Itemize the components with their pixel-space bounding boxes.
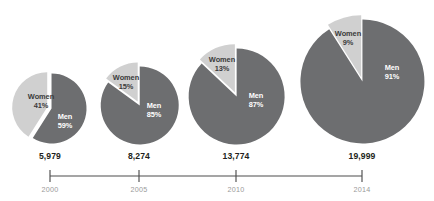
pie-value-men-2000: 59% (58, 121, 73, 130)
pie-value-men-2014: 91% (385, 72, 400, 81)
pie-group-2014: Women 9% Men 91% (300, 15, 424, 143)
pie-total-2005: 8,274 (128, 151, 150, 161)
pie-group-2005: Women 15% Men 85% (101, 62, 179, 144)
pie-group-2000: Women 41% Men 59% (12, 72, 86, 143)
pie-series-canvas: Women 41% Men 59% Women 15% Men 85% Wome… (0, 0, 434, 201)
pie-slice-men-2014 (300, 20, 424, 144)
pie-group-2010: Women 13% Men 87% (189, 44, 285, 144)
pie-total-2010: 13,774 (223, 151, 250, 161)
pie-value-women-2000: 41% (34, 101, 49, 110)
pie-total-2014: 19,999 (349, 151, 376, 161)
timeline-axis (50, 170, 362, 182)
pie-slice-men-2010 (189, 48, 285, 144)
pie-value-women-2014: 9% (343, 38, 354, 47)
pie-value-men-2005: 85% (147, 110, 162, 119)
axis-year-2014: 2014 (353, 185, 370, 194)
pie-value-women-2010: 13% (215, 64, 230, 73)
pie-value-men-2010: 87% (249, 100, 264, 109)
axis-year-2010: 2010 (227, 185, 244, 194)
axis-year-2005: 2005 (130, 185, 147, 194)
pie-series-chart: Women 41% Men 59% Women 15% Men 85% Wome… (0, 0, 434, 201)
axis-year-2000: 2000 (41, 185, 58, 194)
pie-value-women-2005: 15% (119, 82, 134, 91)
pie-total-2000: 5,979 (39, 151, 61, 161)
